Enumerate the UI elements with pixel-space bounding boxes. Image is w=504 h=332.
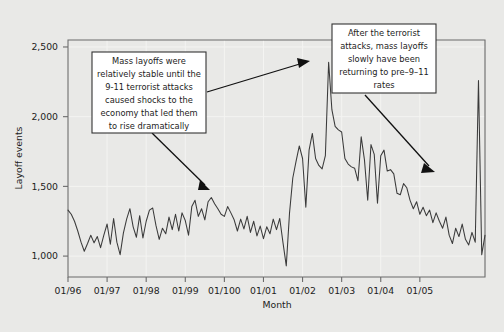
layoff-events-chart: 1,0001,5002,0002,500 01/9601/9701/9801/9… xyxy=(0,0,504,332)
left-annotation-line-5: economy that led them xyxy=(100,108,197,118)
x-tick-label: 01/98 xyxy=(133,285,160,296)
x-tick-label: 01/02 xyxy=(289,285,316,296)
x-tick-label: 01/97 xyxy=(94,285,121,296)
y-tick-label: 1,500 xyxy=(31,181,58,192)
x-axis-title: Month xyxy=(262,299,291,310)
y-axis-title: Layoff events xyxy=(13,126,24,189)
y-tick-label: 2,000 xyxy=(31,111,58,122)
x-tick-label: 01/05 xyxy=(406,285,433,296)
x-tick-label: 01/96 xyxy=(55,285,82,296)
y-tick-label: 2,500 xyxy=(31,41,58,52)
left-annotation-line-4: caused shocks to the xyxy=(105,95,193,105)
chart-svg: 1,0001,5002,0002,500 01/9601/9701/9801/9… xyxy=(0,0,504,332)
x-tick-label: 01/100 xyxy=(208,285,241,296)
right-annotation-line-2: attacks, mass layoffs xyxy=(340,41,428,51)
right-annotation-line-1: After the terrorist xyxy=(348,28,421,38)
right-annotation-line-4: returning to pre–9–11 xyxy=(339,67,429,77)
x-tick-label: 01/04 xyxy=(367,285,394,296)
left-annotation-line-6: to rise dramatically xyxy=(109,121,189,131)
x-tick-label: 01/03 xyxy=(328,285,355,296)
right-annotation-line-3: slowly have been xyxy=(348,54,420,64)
left-annotation-line-2: relatively stable until the xyxy=(97,69,201,79)
x-tick-label: 01/99 xyxy=(172,285,199,296)
left-annotation-line-3: 9-11 terrorist attacks xyxy=(105,82,193,92)
right-annotation-line-5: rates xyxy=(373,80,394,90)
y-tick-label: 1,000 xyxy=(31,250,58,261)
left-annotation-line-1: Mass layoffs were xyxy=(112,56,186,66)
x-tick-label: 01/01 xyxy=(250,285,277,296)
